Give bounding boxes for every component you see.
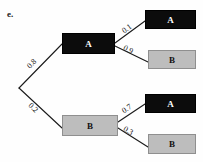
node-label: A bbox=[167, 15, 174, 25]
probability-tree-diagram: e. A B A B A B 0.8 0.2 0.1 0.9 0.7 0.3 bbox=[0, 0, 203, 162]
node-label: B bbox=[169, 55, 175, 65]
node-level1-b: B bbox=[62, 115, 118, 136]
node-level2-a-b: B bbox=[148, 50, 196, 69]
edge-root-to-a bbox=[19, 44, 62, 88]
edge-root-to-b bbox=[19, 88, 62, 128]
node-level2-a-a: A bbox=[145, 10, 196, 29]
part-label: e. bbox=[7, 10, 13, 19]
node-label: A bbox=[167, 99, 174, 109]
node-level1-a: A bbox=[62, 33, 115, 54]
node-label: A bbox=[85, 39, 92, 49]
node-label: B bbox=[87, 121, 93, 131]
node-label: B bbox=[169, 139, 175, 149]
node-level2-b-a: A bbox=[145, 94, 196, 113]
node-level2-b-b: B bbox=[148, 134, 196, 154]
